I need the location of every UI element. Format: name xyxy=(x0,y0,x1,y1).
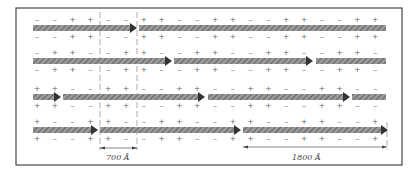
minus-charge-icon: – xyxy=(338,134,342,143)
plus-charge-icon: + xyxy=(34,84,41,93)
minus-charge-icon: – xyxy=(106,15,110,24)
minus-charge-icon: – xyxy=(231,84,235,93)
plus-charge-icon: + xyxy=(34,117,41,126)
plus-charge-icon: + xyxy=(247,134,254,143)
molecule-arrow xyxy=(208,94,343,100)
plus-charge-icon: + xyxy=(336,101,343,110)
plus-charge-icon: + xyxy=(140,15,147,24)
minus-charge-icon: – xyxy=(284,134,288,143)
minus-charge-icon: – xyxy=(53,134,57,143)
minus-charge-icon: – xyxy=(320,48,324,57)
minus-charge-icon: – xyxy=(355,84,359,93)
plus-charge-icon: + xyxy=(229,117,236,126)
plus-charge-icon: + xyxy=(176,84,183,93)
plus-charge-icon: + xyxy=(51,48,58,57)
minus-charge-icon: – xyxy=(338,117,342,126)
plus-charge-icon: + xyxy=(105,101,112,110)
molecule-arrow xyxy=(63,94,198,100)
plus-charge-icon: + xyxy=(372,15,379,24)
molecule-arrow xyxy=(33,25,130,31)
plus-charge-icon: + xyxy=(247,101,254,110)
plus-charge-icon: + xyxy=(87,117,94,126)
molecule-arrow xyxy=(33,94,54,100)
fibril-packing-diagram: ––––++++––––++++––––++++––––++++––––++++… xyxy=(0,0,417,179)
plus-charge-icon: + xyxy=(354,32,361,41)
minus-charge-icon: – xyxy=(177,48,181,57)
plus-charge-icon: + xyxy=(140,48,147,57)
arrow-head-icon xyxy=(343,92,350,102)
minus-charge-icon: – xyxy=(124,134,128,143)
minus-charge-icon: – xyxy=(106,65,110,74)
minus-charge-icon: – xyxy=(213,101,217,110)
minus-charge-icon: – xyxy=(106,48,110,57)
plus-charge-icon: + xyxy=(336,48,343,57)
minus-charge-icon: – xyxy=(71,84,75,93)
plus-charge-icon: + xyxy=(176,134,183,143)
minus-charge-icon: – xyxy=(302,65,306,74)
dimension-label: 1800 Å xyxy=(292,153,321,162)
minus-charge-icon: – xyxy=(160,101,164,110)
minus-charge-icon: – xyxy=(249,15,253,24)
plus-charge-icon: + xyxy=(176,117,183,126)
plus-charge-icon: + xyxy=(140,65,147,74)
molecule-arrow xyxy=(100,127,234,133)
minus-charge-icon: – xyxy=(195,32,199,41)
minus-charge-icon: – xyxy=(124,15,128,24)
minus-charge-icon: – xyxy=(213,117,217,126)
plus-charge-icon: + xyxy=(354,48,361,57)
minus-charge-icon: – xyxy=(177,15,181,24)
minus-charge-icon: – xyxy=(35,48,39,57)
arrow-right-icon xyxy=(382,146,387,149)
plus-charge-icon: + xyxy=(69,48,76,57)
minus-charge-icon: – xyxy=(284,117,288,126)
plus-charge-icon: + xyxy=(336,65,343,74)
plus-charge-icon: + xyxy=(194,65,201,74)
minus-charge-icon: – xyxy=(53,32,57,41)
minus-charge-icon: – xyxy=(35,15,39,24)
plus-charge-icon: + xyxy=(247,84,254,93)
minus-charge-icon: – xyxy=(302,48,306,57)
minus-charge-icon: – xyxy=(231,101,235,110)
arrow-right-icon xyxy=(132,147,137,150)
minus-charge-icon: – xyxy=(195,15,199,24)
molecule-row: ++++––––++++––––++++––––++++––––++++–––– xyxy=(33,84,386,110)
plus-charge-icon: + xyxy=(176,101,183,110)
minus-charge-icon: – xyxy=(177,32,181,41)
arrow-left-icon xyxy=(100,147,105,150)
plus-charge-icon: + xyxy=(212,15,219,24)
plus-charge-icon: + xyxy=(87,15,94,24)
plus-charge-icon: + xyxy=(194,84,201,93)
minus-charge-icon: – xyxy=(320,15,324,24)
molecule-arrow xyxy=(139,25,386,31)
plus-charge-icon: + xyxy=(158,32,165,41)
minus-charge-icon: – xyxy=(355,134,359,143)
minus-charge-icon: – xyxy=(195,117,199,126)
minus-charge-icon: – xyxy=(88,65,92,74)
arrow-head-icon xyxy=(165,56,172,66)
plus-charge-icon: + xyxy=(318,117,325,126)
minus-charge-icon: – xyxy=(373,65,377,74)
minus-charge-icon: – xyxy=(355,101,359,110)
plus-charge-icon: + xyxy=(265,84,272,93)
minus-charge-icon: – xyxy=(160,84,164,93)
plus-charge-icon: + xyxy=(194,48,201,57)
plus-charge-icon: + xyxy=(158,15,165,24)
plus-charge-icon: + xyxy=(354,65,361,74)
plus-charge-icon: + xyxy=(212,48,219,57)
molecule-row: ––++++––––++++––––++++––––++++––––++++–– xyxy=(33,48,386,74)
minus-charge-icon: – xyxy=(88,48,92,57)
plus-charge-icon: + xyxy=(229,15,236,24)
plus-charge-icon: + xyxy=(51,101,58,110)
dimension-label: 700 Å xyxy=(106,153,130,162)
minus-charge-icon: – xyxy=(338,15,342,24)
molecule-arrow xyxy=(352,94,386,100)
plus-charge-icon: + xyxy=(283,65,290,74)
minus-charge-icon: – xyxy=(320,65,324,74)
minus-charge-icon: – xyxy=(53,117,57,126)
minus-charge-icon: – xyxy=(71,134,75,143)
plus-charge-icon: + xyxy=(105,134,112,143)
molecule-arrow xyxy=(174,58,306,64)
plus-charge-icon: + xyxy=(123,84,130,93)
minus-charge-icon: – xyxy=(142,117,146,126)
minus-charge-icon: – xyxy=(249,48,253,57)
